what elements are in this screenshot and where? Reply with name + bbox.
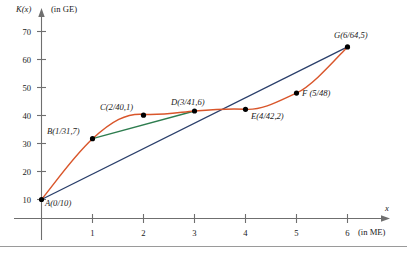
chart-figure: K(x) (in GE) x (in ME) 70 60 50 40 30 20…: [0, 0, 407, 255]
x-tick-label-1: 1: [78, 228, 108, 238]
y-tick-label-30: 30: [11, 139, 31, 149]
data-point-f: [294, 91, 299, 96]
x-tick-label-3: 3: [180, 228, 210, 238]
x-tick-label-4: 4: [231, 228, 261, 238]
x-axis-name: x: [385, 204, 389, 213]
y-tick-label-70: 70: [11, 27, 31, 37]
data-point-c: [141, 113, 146, 118]
point-label-e: E(4/42,2): [251, 111, 284, 121]
y-axis-unit: (in GE): [51, 5, 77, 14]
secant-line-ag: [42, 47, 348, 200]
data-point-a: [39, 197, 44, 202]
point-label-g: G(6/64,5): [334, 30, 368, 40]
y-tick-label-60: 60: [11, 55, 31, 65]
point-label-d: D(3/41,6): [171, 97, 205, 107]
point-label-a: A(0/10): [45, 198, 71, 208]
y-axis-name: K(x): [16, 5, 31, 14]
point-label-b: B(1/31,7): [47, 126, 80, 136]
bottom-divider: [0, 246, 407, 247]
x-tick-label-5: 5: [282, 228, 312, 238]
y-tick-label-20: 20: [11, 167, 31, 177]
point-label-f: F (5/48): [302, 88, 330, 98]
y-tick-label-10: 10: [11, 195, 31, 205]
x-tick-label-2: 2: [129, 228, 159, 238]
point-label-c: C(2/40,1): [100, 102, 133, 112]
x-axis-arrow: [381, 215, 390, 221]
data-point-d: [192, 108, 197, 113]
data-point-e: [243, 107, 248, 112]
y-tick-label-40: 40: [11, 111, 31, 121]
data-point-g: [345, 44, 350, 49]
y-tick-label-50: 50: [11, 83, 31, 93]
data-point-b: [90, 136, 95, 141]
x-tick-label-6: 6: [333, 228, 363, 238]
y-axis-arrow: [38, 8, 44, 17]
